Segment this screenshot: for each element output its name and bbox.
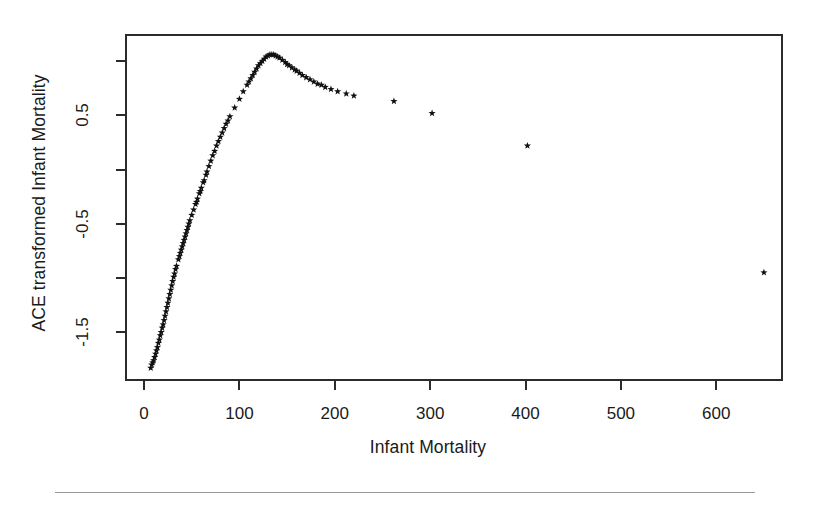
data-point [343, 90, 350, 97]
x-tick-mark [143, 381, 145, 390]
y-tick-mark [116, 223, 125, 225]
scatter-plot-figure: ACE transformed Infant Mortality 0100200… [0, 0, 817, 507]
y-axis-title: ACE transformed Infant Mortality [26, 28, 52, 378]
data-point [350, 92, 357, 99]
x-tick-label: 400 [496, 404, 556, 424]
x-tick-label: 0 [114, 404, 174, 424]
x-tick-mark [334, 381, 336, 390]
x-tick-mark [620, 381, 622, 390]
data-point [226, 113, 233, 120]
x-tick-label: 500 [591, 404, 651, 424]
y-tick-mark [116, 331, 125, 333]
x-tick-label: 200 [305, 404, 365, 424]
y-tick-label: -1.5 [73, 305, 93, 359]
data-point [240, 88, 247, 95]
data-point [327, 86, 334, 93]
data-point [231, 104, 238, 111]
data-point [390, 98, 397, 105]
x-tick-mark [429, 381, 431, 390]
y-tick-mark [116, 169, 125, 171]
data-point [760, 269, 767, 276]
x-tick-mark [238, 381, 240, 390]
data-point [524, 142, 531, 149]
y-tick-mark [116, 114, 125, 116]
x-tick-label: 600 [686, 404, 746, 424]
y-tick-mark [116, 60, 125, 62]
x-tick-label: 300 [400, 404, 460, 424]
y-tick-label: 0.5 [73, 88, 93, 142]
data-point [236, 95, 243, 102]
x-axis-title: Infant Mortality [128, 437, 728, 458]
x-tick-mark [715, 381, 717, 390]
data-point [429, 109, 436, 116]
y-tick-label: -0.5 [73, 197, 93, 251]
x-tick-mark [525, 381, 527, 390]
y-tick-mark [116, 277, 125, 279]
x-tick-label: 100 [209, 404, 269, 424]
data-points-layer [125, 34, 783, 381]
footer-rule [55, 492, 755, 493]
data-point [334, 88, 341, 95]
